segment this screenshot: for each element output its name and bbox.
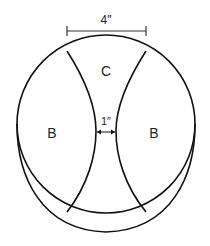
dimension-middle: 1″	[97, 115, 115, 135]
disc-outer-edge	[17, 124, 195, 232]
panel-label-left: B	[47, 125, 56, 141]
dimension-middle-label: 1″	[101, 115, 111, 127]
panel-label-top: C	[101, 63, 111, 79]
arrow-right-icon	[111, 130, 115, 135]
panel-label-right: B	[149, 125, 158, 141]
seam-left	[67, 51, 96, 212]
dimension-top-label: 4″	[101, 13, 113, 27]
dimension-top: 4″	[67, 13, 146, 36]
seam-right	[116, 51, 146, 212]
arrow-left-icon	[97, 130, 101, 135]
ball-diagram: 4″ 1″ C B B	[0, 0, 210, 246]
